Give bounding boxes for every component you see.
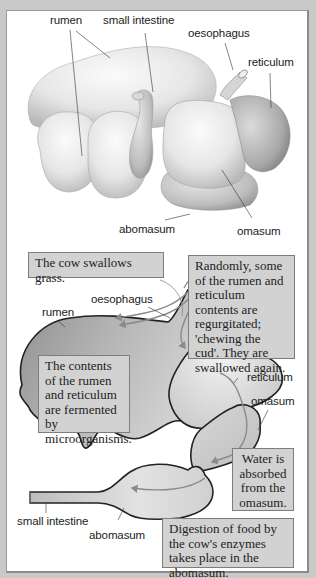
label-small-intestine-top: small intestine [103, 14, 174, 26]
stomach-3d [28, 47, 290, 211]
label-rumen-bottom: rumen [42, 306, 74, 318]
label-oesophagus-bottom: oesophagus [91, 293, 153, 305]
label-reticulum-top: reticulum [248, 56, 294, 68]
callout-regurgitate: Randomly, some of the rumen and reticulu… [188, 255, 295, 359]
label-abomasum-bottom: abomasum [89, 529, 145, 541]
callout-swallow: The cow swallows grass. [28, 252, 164, 278]
label-small-intestine-bottom: small intestine [17, 515, 88, 527]
label-oesophagus-top: oesophagus [188, 27, 250, 39]
label-omasum-bottom: omasum [251, 395, 295, 407]
callout-digestion: Digestion of food by the cow's enzymes t… [162, 518, 294, 568]
label-omasum-top: omasum [237, 225, 281, 237]
label-abomasum-top: abomasum [119, 223, 175, 235]
callout-ferment: The contents of the rumen and reticulum … [38, 355, 130, 433]
label-rumen-top: rumen [50, 14, 82, 26]
callout-water: Water is absorbed from the omasum. [232, 448, 294, 511]
